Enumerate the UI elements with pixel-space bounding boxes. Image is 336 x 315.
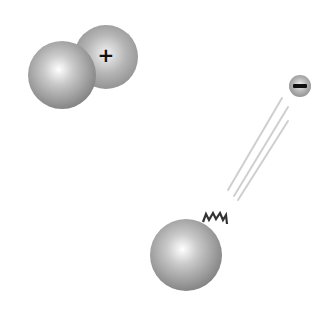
motion-streaks [228, 98, 288, 200]
neutral-sphere [28, 41, 96, 109]
broken-sphere [150, 213, 227, 291]
particle-diagram: + [0, 0, 336, 315]
negative-particle [289, 75, 311, 97]
minus-sign [293, 84, 307, 88]
molecule: + [28, 25, 138, 109]
plus-sign: + [98, 43, 115, 67]
jagged-break [203, 213, 227, 224]
